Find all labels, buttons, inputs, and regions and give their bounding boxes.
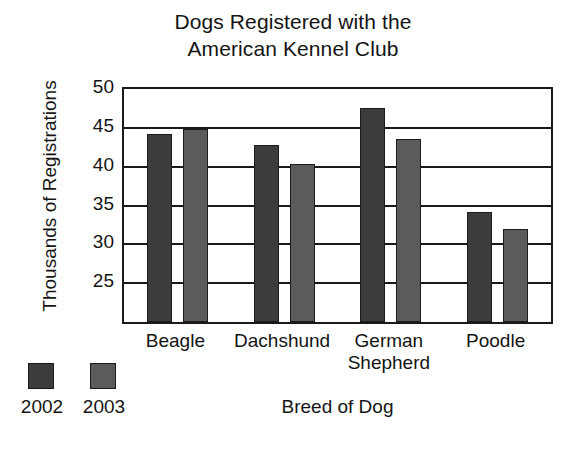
legend-label-2002: 2002 xyxy=(16,396,68,418)
bar-poodle-2002 xyxy=(467,212,492,322)
y-tick-label-25: 25 xyxy=(74,271,114,290)
bar-dachshund-2002 xyxy=(254,145,279,322)
bar-dachshund-2003 xyxy=(290,164,315,322)
y-tick-label-45: 45 xyxy=(74,116,114,135)
y-tick-label-50: 50 xyxy=(74,77,114,96)
y-tick-label-35: 35 xyxy=(74,194,114,213)
x-tick-label-line: Poodle xyxy=(466,330,525,351)
x-tick-label-line: Shepherd xyxy=(336,352,443,374)
x-axis-title: Breed of Dog xyxy=(122,396,553,418)
y-axis-title: Thousands of Registrations xyxy=(38,72,62,320)
x-tick-label-dachshund: Dachshund xyxy=(229,330,336,352)
bar-german-shepherd-2002 xyxy=(360,108,385,322)
bar-german-shepherd-2003 xyxy=(396,139,421,322)
x-axis-category-labels: BeagleDachshundGermanShepherdPoodle xyxy=(122,330,553,374)
x-tick-label-beagle: Beagle xyxy=(122,330,229,352)
y-tick-label-40: 40 xyxy=(74,155,114,174)
x-tick-label-line: German xyxy=(355,330,424,351)
x-tick-label-line: Beagle xyxy=(146,330,205,351)
plot-area xyxy=(122,87,553,324)
legend-swatch-2002 xyxy=(28,363,54,389)
bar-poodle-2003 xyxy=(503,229,528,322)
bar-beagle-2002 xyxy=(147,134,172,322)
y-tick-label-30: 30 xyxy=(74,232,114,251)
bar-beagle-2003 xyxy=(183,129,208,322)
legend-swatch-2003 xyxy=(90,363,116,389)
x-tick-label-line: Dachshund xyxy=(234,330,330,351)
x-tick-label-poodle: Poodle xyxy=(442,330,549,352)
x-tick-label-german-shepherd: GermanShepherd xyxy=(336,330,443,374)
